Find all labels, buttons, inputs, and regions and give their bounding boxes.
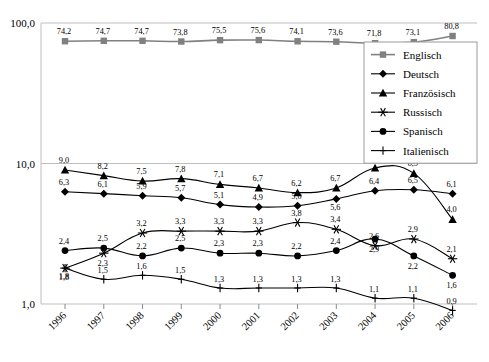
marker-circle <box>294 252 301 259</box>
data-point-label: 7,8 <box>175 165 185 174</box>
marker-circle <box>139 252 146 259</box>
x-axis-tick-label: 1998 <box>123 310 146 333</box>
marker-circle <box>217 250 224 257</box>
marker-circle <box>100 245 107 252</box>
y-axis-tick-label: 10,0 <box>16 158 36 170</box>
x-axis-tick-label: 1999 <box>162 310 185 333</box>
data-point-label: 0,9 <box>446 297 456 306</box>
marker-circle <box>333 247 340 254</box>
data-point-label: 1,5 <box>98 266 108 275</box>
data-point-label: 2,4 <box>330 237 341 246</box>
marker-asterisk <box>215 227 224 235</box>
x-axis-tick-label: 2005 <box>395 310 418 333</box>
data-point-label: 1,6 <box>446 281 456 290</box>
data-point-label: 1,6 <box>136 262 146 271</box>
marker-square <box>333 39 339 45</box>
data-point-label: 80,8 <box>444 22 459 31</box>
data-point-label: 1,3 <box>330 275 340 284</box>
marker-square <box>101 38 107 44</box>
marker-square <box>256 37 262 43</box>
marker-asterisk <box>254 227 263 235</box>
legend-label: Spanisch <box>403 125 443 137</box>
marker-circle <box>178 245 185 252</box>
data-point-label: 2,1 <box>446 245 456 254</box>
y-axis-tick-label: 1,0 <box>21 298 35 310</box>
marker-square <box>217 37 223 43</box>
marker-diamond <box>177 194 185 202</box>
data-point-label: 8,2 <box>98 162 108 171</box>
data-point-label: 3,3 <box>175 217 185 226</box>
legend-label: Englisch <box>403 49 442 61</box>
marker-circle <box>449 272 456 279</box>
marker-circle <box>410 252 417 259</box>
data-point-label: 75,6 <box>251 26 266 35</box>
data-point-label: 1,3 <box>253 275 263 284</box>
marker-circle <box>255 250 262 257</box>
data-point-label: 4,9 <box>253 193 263 202</box>
marker-square <box>380 51 386 57</box>
data-point-label: 2,2 <box>136 242 146 251</box>
data-point-label: 74,1 <box>289 27 304 36</box>
marker-asterisk <box>332 225 341 233</box>
marker-circle <box>380 128 387 135</box>
data-point-label: 73,8 <box>173 28 188 37</box>
marker-asterisk <box>138 229 147 237</box>
data-point-label: 6,1 <box>446 180 456 189</box>
marker-square <box>294 38 300 44</box>
data-point-label: 2,2 <box>408 262 418 271</box>
marker-plus <box>294 284 300 292</box>
data-point-label: 2,3 <box>253 239 263 248</box>
x-axis-tick-label: 1997 <box>85 310 108 333</box>
data-point-label: 7,5 <box>136 167 146 176</box>
marker-triangle <box>332 184 340 192</box>
data-point-label: 2,2 <box>291 242 301 251</box>
data-point-label: 74,7 <box>134 27 149 36</box>
marker-circle <box>62 247 69 254</box>
chart-canvas: 100,010,01,01996199719981999200020012002… <box>0 0 489 362</box>
data-point-label: 73,6 <box>328 28 343 37</box>
legend-label: Deutsch <box>403 68 440 80</box>
data-point-label: 3,2 <box>136 219 146 228</box>
x-axis-tick-label: 2004 <box>356 309 379 332</box>
data-point-label: 74,2 <box>57 27 72 36</box>
marker-plus <box>101 275 107 283</box>
marker-square <box>139 38 145 44</box>
data-point-label: 3,3 <box>214 217 224 226</box>
data-point-label: 1,1 <box>408 285 418 294</box>
marker-plus <box>256 284 262 292</box>
marker-diamond <box>100 190 108 198</box>
marker-diamond <box>332 195 340 203</box>
series-französisch: 9,08,27,57,87,16,76,26,79,38,54,0 <box>59 154 457 223</box>
data-point-label: 2,5 <box>175 234 185 243</box>
data-point-label: 3,8 <box>291 209 301 218</box>
data-point-label: 5,6 <box>330 203 340 212</box>
data-point-label: 6,7 <box>330 174 340 183</box>
data-point-label: 1,3 <box>214 275 224 284</box>
legend-item-italienisch[interactable]: Italienisch <box>371 145 449 157</box>
data-point-label: 74,7 <box>96 27 111 36</box>
marker-asterisk <box>293 218 302 226</box>
x-axis-tick-label: 1996 <box>46 310 69 333</box>
data-point-label: 2,9 <box>369 245 379 254</box>
data-point-label: 5,1 <box>214 191 224 200</box>
data-point-label: 73,1 <box>406 28 421 37</box>
data-point-label: 3,4 <box>330 215 341 224</box>
x-axis-tick-label: 2001 <box>240 310 263 333</box>
data-point-label: 6,4 <box>369 177 380 186</box>
data-point-label: 1,8 <box>59 273 69 282</box>
data-point-label: 1,5 <box>175 266 185 275</box>
data-point-label: 9,0 <box>59 156 69 165</box>
marker-diamond <box>410 186 418 194</box>
data-point-label: 2,5 <box>98 234 108 243</box>
data-point-label: 3,3 <box>253 217 263 226</box>
marker-plus <box>139 271 145 279</box>
legend-label: Französisch <box>403 87 456 99</box>
data-point-label: 2,3 <box>214 239 224 248</box>
marker-circle <box>372 236 379 243</box>
legend: EnglischDeutschFranzösischRussischSpanis… <box>364 42 477 163</box>
x-axis-tick-label: 2000 <box>201 310 224 333</box>
data-point-label: 1,3 <box>291 275 301 284</box>
marker-diamond <box>61 188 69 196</box>
line-chart: 100,010,01,01996199719981999200020012002… <box>0 0 489 362</box>
data-point-label: 4,0 <box>446 205 456 214</box>
